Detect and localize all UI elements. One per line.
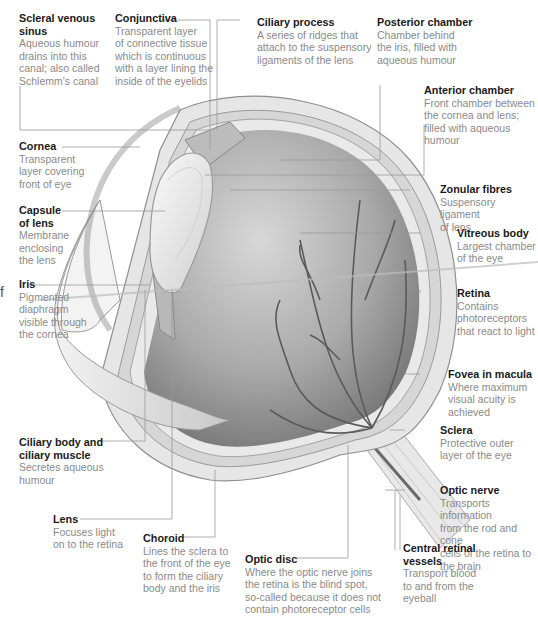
label-ciliary-body: Ciliary body and ciliary muscle Secretes… [19, 436, 129, 486]
label-zonular-fibres: Zonular fibres Suspensory ligament of le… [440, 183, 538, 233]
label-central-retinal-vessels: Central retinal vessels Transport blood … [403, 542, 503, 605]
label-lens: Lens Focuses light on to the retina [53, 513, 143, 551]
stray-glyph: f [0, 284, 4, 300]
label-anterior-chamber: Anterior chamber Front chamber between t… [424, 84, 538, 147]
label-iris: Iris Pigmented diaphragm visible through… [19, 278, 99, 341]
label-optic-disc: Optic disc Where the optic nerve joins t… [245, 553, 395, 616]
label-posterior-chamber: Posterior chamber Chamber behind the iri… [377, 16, 497, 66]
label-sclera: Sclera Protective outer layer of the eye [440, 424, 538, 462]
label-cornea: Cornea Transparent layer covering front … [19, 140, 99, 190]
label-fovea-in-macula: Fovea in macula Where maximum visual acu… [448, 368, 538, 418]
label-scleral-venous-sinus: Scleral venous sinus Aqueous humour drai… [19, 12, 129, 88]
label-choroid: Choroid Lines the sclera to the front of… [143, 532, 243, 595]
label-conjunctiva: Conjunctiva Transparent layer of connect… [115, 12, 235, 88]
label-retina: Retina Contains photoreceptors that reac… [457, 287, 538, 337]
label-vitreous-body: Vitreous body Largest chamber of the eye [457, 227, 538, 265]
label-ciliary-process: Ciliary process A series of ridges that … [257, 16, 387, 66]
label-capsule-of-lens: Capsule of lens Membrane enclosing the l… [19, 204, 79, 267]
